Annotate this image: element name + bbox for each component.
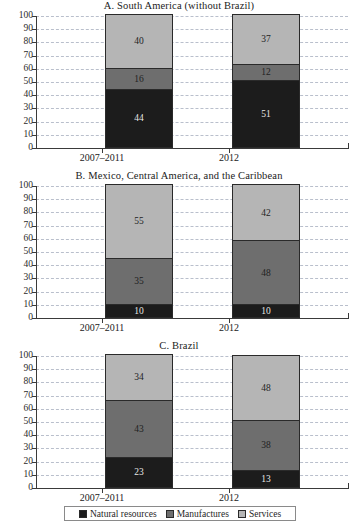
y-axis-tick-label: 10 (7, 470, 33, 480)
y-axis-tick-label: 70 (7, 221, 33, 231)
gridline (36, 122, 348, 123)
bar-segment-value: 44 (134, 113, 144, 123)
bar-segment-value: 42 (261, 208, 271, 218)
stacked-bar-chart-figure: A. South America (without Brazil)1009080… (0, 0, 358, 527)
gridline (36, 462, 348, 463)
y-axis-tick-label: 80 (7, 207, 33, 217)
panel-title: B. Mexico, Central America, and the Cari… (0, 170, 358, 183)
gridline (36, 108, 348, 109)
x-axis-tick-label: 2007–2011 (47, 152, 157, 163)
gridline (36, 422, 348, 423)
stacked-bar: 371251 (232, 14, 300, 148)
x-axis-tick-label: 2007–2011 (47, 492, 157, 503)
legend-label: Manufactures (177, 509, 229, 519)
gridline (36, 356, 348, 357)
x-axis-line (36, 318, 349, 319)
bar-segment-value: 16 (134, 74, 144, 84)
chart-panel: B. Mexico, Central America, and the Cari… (0, 170, 358, 340)
bar-segment-manufactures: 35 (106, 258, 172, 304)
legend-item: Services (238, 509, 281, 519)
bar-segment-value: 12 (261, 67, 271, 77)
legend-swatch-icon (238, 510, 246, 518)
y-axis-tick-label: 70 (7, 51, 33, 61)
y-axis-tick-label: 0 (7, 483, 33, 493)
bar-segment-services: 48 (233, 356, 299, 419)
gridline (36, 226, 348, 227)
panel-title: C. Brazil (0, 340, 358, 353)
gridline (36, 475, 348, 476)
bar-segment-services: 34 (106, 355, 172, 400)
y-axis-tick-label: 10 (7, 130, 33, 140)
bar-segment-manufactures: 38 (233, 420, 299, 470)
plot-canvas: 401644371251 (36, 16, 348, 148)
y-axis-tick-label: 60 (7, 404, 33, 414)
legend-label: Natural resources (90, 509, 157, 519)
chart-legend: Natural resourcesManufacturesServices (64, 506, 296, 521)
bar-segment-value: 48 (261, 383, 271, 393)
y-axis-tick-label: 50 (7, 77, 33, 87)
bar-segment-value: 37 (261, 34, 271, 44)
bar-segment-value: 40 (134, 36, 144, 46)
y-axis-tick-label: 60 (7, 64, 33, 74)
y-axis-line (36, 356, 37, 489)
bar-segment-services: 42 (233, 185, 299, 240)
bar-segment-natural-resources: 51 (233, 80, 299, 147)
chart-panel: A. South America (without Brazil)1009080… (0, 0, 358, 170)
gridline (36, 305, 348, 306)
y-axis-tick-label: 80 (7, 377, 33, 387)
y-axis-tick-label: 80 (7, 37, 33, 47)
bar-segment-services: 40 (106, 15, 172, 68)
gridline (36, 396, 348, 397)
y-axis-tick-label: 100 (7, 351, 33, 361)
legend-swatch-icon (79, 510, 87, 518)
bar-segment-natural-resources: 13 (233, 470, 299, 487)
stacked-bar: 344323 (105, 354, 173, 488)
stacked-bar: 401644 (105, 14, 173, 148)
plot-canvas: 553510424810 (36, 186, 348, 318)
gridline (36, 409, 348, 410)
y-axis-line (36, 186, 37, 319)
legend-item: Manufactures (166, 509, 229, 519)
y-axis-tick-label: 90 (7, 364, 33, 374)
y-axis-tick-label: 40 (7, 260, 33, 270)
bar-segment-value: 10 (261, 306, 271, 316)
y-axis-tick-label: 30 (7, 273, 33, 283)
gridline (36, 186, 348, 187)
bar-segment-value: 10 (134, 306, 144, 316)
y-axis-tick-label: 40 (7, 430, 33, 440)
gridline (36, 435, 348, 436)
x-axis-end-tick (348, 483, 349, 489)
gridline (36, 82, 348, 83)
gridline (36, 16, 348, 17)
gridline (36, 199, 348, 200)
x-axis-tick-label: 2012 (174, 152, 284, 163)
gridline (36, 69, 348, 70)
y-axis-tick-label: 100 (7, 11, 33, 21)
bar-segment-value: 23 (134, 467, 144, 477)
y-axis-tick-label: 0 (7, 313, 33, 323)
gridline (36, 382, 348, 383)
gridline (36, 278, 348, 279)
bar-segment-value: 35 (134, 276, 144, 286)
x-axis-end-tick (348, 313, 349, 319)
bar-segment-natural-resources: 44 (106, 89, 172, 147)
legend-label: Services (249, 509, 281, 519)
bar-segment-services: 37 (233, 15, 299, 64)
x-axis-end-tick (348, 143, 349, 149)
bar-segment-value: 38 (261, 440, 271, 450)
x-axis-tick-label: 2012 (174, 322, 284, 333)
x-axis-line (36, 488, 349, 489)
bar-segment-natural-resources: 23 (106, 457, 172, 487)
y-axis-tick-label: 0 (7, 143, 33, 153)
bar-segment-natural-resources: 10 (106, 304, 172, 317)
y-axis-tick-label: 20 (7, 117, 33, 127)
y-axis-tick-label: 50 (7, 417, 33, 427)
gridline (36, 212, 348, 213)
bar-segment-manufactures: 43 (106, 400, 172, 457)
y-axis-tick-label: 50 (7, 247, 33, 257)
y-axis-tick-label: 10 (7, 300, 33, 310)
bar-segment-value: 55 (134, 216, 144, 226)
panel-title: A. South America (without Brazil) (0, 0, 358, 13)
y-axis-tick-label: 30 (7, 443, 33, 453)
gridline (36, 252, 348, 253)
